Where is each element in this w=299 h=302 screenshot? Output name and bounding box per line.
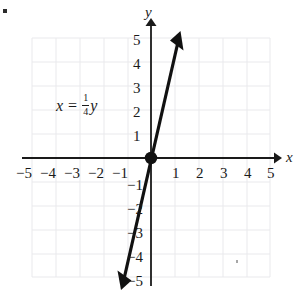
equation-rhs-variable: y	[90, 98, 97, 114]
y-tick-label-9: −5	[127, 274, 143, 289]
x-tick-label-5: 1	[172, 166, 180, 181]
y-tick-label-4: 1	[133, 129, 141, 144]
x-tick-label-3: −2	[88, 166, 104, 181]
x-axis-arrowhead	[274, 153, 282, 164]
equation-fraction: 1 4	[82, 93, 89, 117]
y-tick-label-8: −4	[127, 250, 143, 265]
y-tick-label-0: 5	[133, 33, 141, 48]
fraction-numerator: 1	[82, 93, 89, 104]
x-tick-label-2: −3	[64, 166, 80, 181]
y-tick-label-2: 3	[133, 81, 141, 96]
y-tick-label-6: −2	[127, 202, 143, 217]
coordinate-plane-svg	[0, 0, 299, 302]
x-tick-label-8: 4	[244, 166, 252, 181]
x-tick-label-6: 2	[196, 166, 204, 181]
x-tick-label-0: −5	[16, 166, 32, 181]
y-tick-label-3: 2	[133, 105, 141, 120]
x-tick-label-4: −1	[112, 166, 128, 181]
graph-figure: x y −5−4−3−2−112345 54321−1−2−3−4−5 x = …	[0, 0, 299, 302]
y-axis-label: y	[145, 5, 152, 20]
stray-speck	[236, 260, 238, 263]
y-tick-label-5: −1	[127, 178, 143, 193]
x-tick-label-7: 3	[220, 166, 228, 181]
equation-lhs: x	[56, 98, 63, 114]
fraction-denominator: 4	[82, 107, 89, 118]
y-tick-label-1: 4	[133, 57, 141, 72]
x-tick-label-9: 5	[267, 166, 275, 181]
origin-point	[145, 152, 157, 164]
equation-operator: =	[68, 98, 77, 114]
x-axis-label: x	[286, 150, 293, 165]
equation-annotation: x = 1 4 y	[56, 94, 102, 118]
x-tick-label-1: −4	[40, 166, 56, 181]
y-tick-label-7: −3	[127, 226, 143, 241]
